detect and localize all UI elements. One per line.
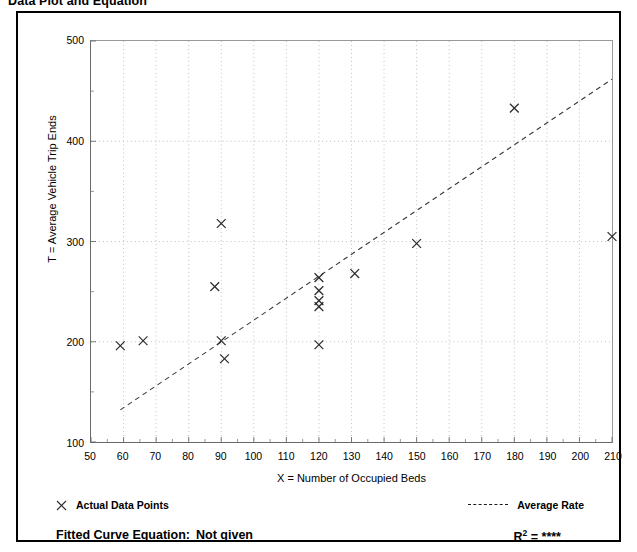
x-tick-label: 70: [150, 450, 162, 462]
data-point-marker: [139, 336, 148, 345]
footer: Fitted Curve Equation:Not given R2 = ***…: [18, 528, 619, 552]
r-squared-equals: =: [531, 530, 538, 544]
y-axis-title: T = Average Vehicle Trip Ends: [46, 79, 58, 299]
data-points-layer: [91, 41, 612, 442]
data-point-marker: [350, 269, 359, 278]
x-tick-label: 140: [375, 450, 393, 462]
legend-label-actual-data-points: Actual Data Points: [76, 499, 169, 511]
legend: Actual Data Points Average Rate: [18, 499, 619, 521]
y-tick-label: 500: [66, 34, 84, 46]
data-point-marker: [116, 341, 125, 350]
x-tick-label: 180: [506, 450, 524, 462]
x-tick-label: 150: [408, 450, 426, 462]
x-axis-title: X = Number of Occupied Beds: [90, 472, 613, 484]
y-tick-label: 300: [66, 236, 84, 248]
plot-area: [90, 40, 613, 443]
fitted-curve-equation: Fitted Curve Equation:Not given: [56, 528, 253, 542]
legend-item-average-rate: Average Rate: [468, 499, 584, 511]
data-point-marker: [220, 354, 229, 363]
y-tick-label: 100: [66, 437, 84, 449]
x-tick-label: 200: [572, 450, 590, 462]
r-squared-exponent: 2: [523, 528, 528, 538]
data-point-marker: [217, 219, 226, 228]
data-point-marker: [510, 104, 519, 113]
data-point-marker: [210, 282, 219, 291]
x-tick-label: 60: [117, 450, 129, 462]
x-tick-label: 170: [473, 450, 491, 462]
x-tick-label: 130: [343, 450, 361, 462]
x-tick-label: 80: [182, 450, 194, 462]
fitted-curve-label: Fitted Curve Equation:: [56, 528, 190, 542]
legend-item-actual-data-points: Actual Data Points: [56, 499, 169, 511]
data-point-marker: [608, 232, 617, 241]
x-tick-label: 50: [84, 450, 96, 462]
y-tick-label: 200: [66, 336, 84, 348]
x-tick-label: 190: [539, 450, 557, 462]
page-title: Data Plot and Equation: [8, 0, 147, 8]
cross-marker-icon: [56, 500, 67, 511]
dashed-line-icon: [468, 504, 508, 506]
x-tick-label: 210: [604, 450, 622, 462]
y-tick-label: 400: [66, 135, 84, 147]
data-point-marker: [315, 273, 324, 282]
x-tick-label: 90: [215, 450, 227, 462]
data-point-marker: [315, 302, 324, 311]
y-axis-tick-labels: 100200300400500: [38, 40, 84, 443]
x-tick-label: 160: [441, 450, 459, 462]
x-tick-label: 120: [310, 450, 328, 462]
r-squared-value: R2 = ****: [513, 528, 561, 544]
figure-frame: 100200300400500 T = Average Vehicle Trip…: [16, 11, 621, 542]
r-squared-stars: ****: [542, 530, 561, 544]
r-squared-label: R: [513, 530, 522, 544]
data-point-marker: [315, 340, 324, 349]
x-axis-tick-labels: 5060708090100110120130140150160170180190…: [90, 450, 613, 466]
fitted-curve-value: Not given: [196, 528, 253, 542]
x-tick-label: 110: [278, 450, 295, 462]
legend-label-average-rate: Average Rate: [517, 499, 584, 511]
data-point-marker: [412, 239, 421, 248]
data-point-marker: [217, 336, 226, 345]
x-tick-label: 100: [245, 450, 263, 462]
data-point-marker: [315, 286, 324, 295]
